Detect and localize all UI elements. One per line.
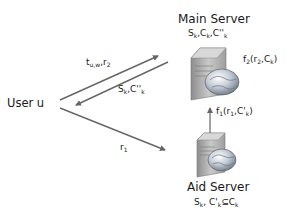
edge-label-user-to-aid: r1 (120, 142, 128, 153)
subscript: 2 (257, 58, 261, 65)
subscript: 2 (246, 58, 250, 65)
subscript: 2 (107, 61, 111, 68)
subscript: 1 (124, 146, 128, 153)
subscript: k (246, 110, 249, 117)
user-label: User u (7, 96, 44, 110)
subscript: k (200, 201, 203, 208)
subscript: k (206, 32, 209, 39)
aid-server-title: Aid Server (187, 180, 249, 194)
subscript: k (141, 88, 144, 95)
main-server-title: Main Server (178, 12, 250, 26)
aid-server-data: Sk, C'k⊆Ck (194, 197, 239, 208)
main-server-icon (191, 48, 239, 100)
subscript: u,w (90, 61, 101, 68)
arrow-user-to-aid (60, 108, 165, 150)
symbol: C' (209, 197, 218, 207)
subset-symbol: ⊆ (221, 197, 229, 207)
subscript: k (194, 32, 197, 39)
subscript: k (235, 201, 238, 208)
edge-label-main-to-user: Sk,C''k (118, 84, 145, 95)
symbol: C'' (130, 84, 141, 94)
aid-server-function: f1(r1,C'k) (216, 106, 253, 117)
edge-label-user-to-main: tu,w,r2 (86, 57, 111, 68)
subscript: 1 (230, 110, 234, 117)
subscript: k (124, 88, 127, 95)
symbol: C' (237, 106, 246, 116)
symbol: C'' (213, 28, 224, 38)
subscript: 1 (219, 110, 223, 117)
aid-server-icon (197, 133, 236, 177)
main-server-data: Sk,Ck,C''k (188, 28, 227, 39)
main-server-function: f2(r2,Ck) (243, 54, 277, 65)
subscript: k (270, 58, 273, 65)
subscript: k (224, 32, 227, 39)
